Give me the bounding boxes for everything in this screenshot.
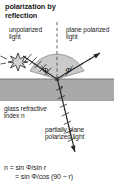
- formula-line-2: = sin Φ/cos (90 − r): [4, 172, 73, 181]
- refracted-ray-arrowhead: [71, 145, 76, 152]
- incidence-point-marker: [55, 77, 59, 81]
- formula-block: n = sin Φ/sin r = sin Φ/cos (90 − r): [4, 163, 73, 182]
- incident-angle-symbol: Φ: [42, 66, 48, 75]
- source-stub-rays: [1, 56, 7, 64]
- optics-ray-diagram: Φ Φ r: [0, 0, 114, 186]
- starburst-icon: [8, 53, 28, 71]
- formula-line-1: n = sin Φ/sin r: [4, 163, 73, 172]
- reflected-ray-arrowhead: [93, 53, 100, 58]
- reflected-angle-symbol: Φ: [65, 66, 71, 75]
- polarization-diagram-figure: polarization by reflection unpolarized l…: [0, 0, 114, 186]
